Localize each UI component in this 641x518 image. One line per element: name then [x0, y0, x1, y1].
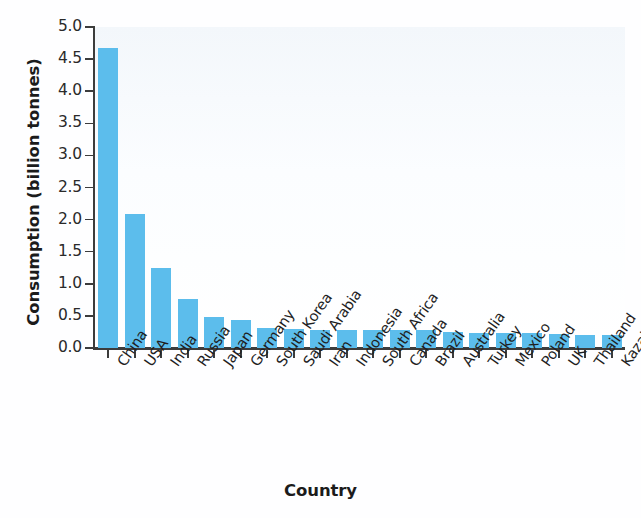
- x-axis-tick: [107, 349, 109, 358]
- x-axis-tick-label: USA: [141, 360, 154, 369]
- x-axis-tick-label: Thailand: [591, 360, 604, 369]
- y-axis-tick: [85, 58, 93, 60]
- x-axis-tick-label: Kazakhstan: [618, 360, 631, 369]
- y-axis-tick: [85, 123, 93, 125]
- y-axis-tick: [85, 283, 93, 285]
- y-axis-tick: [85, 347, 93, 349]
- y-axis-tick: [85, 155, 93, 157]
- x-axis-tick-label: Russia: [194, 360, 207, 369]
- x-axis-tick-label: Japan: [220, 360, 233, 369]
- y-axis-tick-label: 0.0: [38, 338, 82, 356]
- y-axis-tick-label: 2.5: [38, 178, 82, 196]
- y-axis-tick-label: 3.0: [38, 145, 82, 163]
- x-axis-tick-label: Poland: [538, 360, 551, 369]
- x-axis-tick-label: Germany: [247, 360, 260, 369]
- y-axis-tick: [85, 315, 93, 317]
- x-axis-tick-label: Australia: [459, 360, 472, 369]
- y-axis-tick-label: 2.0: [38, 210, 82, 228]
- x-axis-title: Country: [0, 481, 641, 500]
- x-axis-tick-label: UK: [565, 360, 578, 369]
- bar-chart: Consumption (billion tonnes) 0.00.51.01.…: [0, 0, 641, 518]
- y-axis-tick-label: 4.0: [38, 81, 82, 99]
- bar: [125, 214, 145, 348]
- y-axis-tick-label: 1.5: [38, 242, 82, 260]
- x-axis-tick-label: Saudi Arabia: [300, 360, 313, 369]
- x-axis-tick-label: South Korea: [273, 360, 286, 369]
- x-axis-tick-label: Canada: [406, 360, 419, 369]
- y-axis-tick-label: 1.0: [38, 274, 82, 292]
- y-axis-tick-label: 5.0: [38, 17, 82, 35]
- y-axis-tick: [85, 90, 93, 92]
- x-axis-tick-label: Brazil: [432, 360, 445, 369]
- x-axis-tick-label: Turkey: [485, 360, 498, 369]
- x-axis-tick-label: South Africa: [379, 360, 392, 369]
- y-axis-tick-label: 0.5: [38, 306, 82, 324]
- x-axis-tick-label: Mexico: [512, 360, 525, 369]
- bar: [151, 268, 171, 348]
- y-axis-tick: [85, 219, 93, 221]
- y-axis-tick: [85, 187, 93, 189]
- x-axis-tick-label: China: [114, 360, 127, 369]
- y-axis-tick-label: 4.5: [38, 49, 82, 67]
- x-axis-tick-label: India: [167, 360, 180, 369]
- y-axis-tick-label: 3.5: [38, 113, 82, 131]
- x-axis-tick-label: Indonesia: [353, 360, 366, 369]
- y-axis-tick: [85, 251, 93, 253]
- bar: [98, 48, 118, 348]
- y-axis-tick: [85, 26, 93, 28]
- x-axis-tick-label: Iran: [326, 360, 339, 369]
